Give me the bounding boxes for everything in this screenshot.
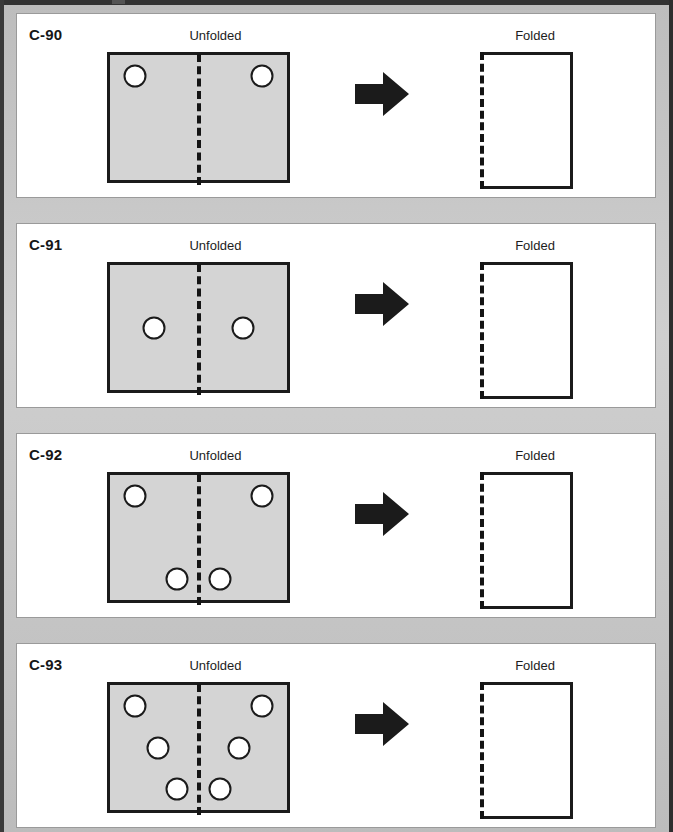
scan-edge-right xyxy=(669,0,673,832)
punched-hole xyxy=(208,567,231,590)
punched-hole xyxy=(166,777,189,800)
folded-result-outline xyxy=(480,262,573,399)
folded-result-outline xyxy=(480,472,573,609)
punched-hole xyxy=(251,695,274,718)
folded-edge-top xyxy=(480,682,573,685)
right-arrow-icon xyxy=(355,280,409,328)
folded-fold-line xyxy=(480,682,484,819)
unfolded-caption: Unfolded xyxy=(124,28,307,43)
fold-line xyxy=(197,684,201,815)
folded-edge-right xyxy=(570,52,573,189)
punched-hole xyxy=(231,316,254,339)
folded-caption: Folded xyxy=(480,238,590,253)
fold-line xyxy=(197,54,201,185)
folded-edge-bottom xyxy=(480,606,573,609)
scan-edge-left xyxy=(0,0,4,832)
folded-edge-top xyxy=(480,472,573,475)
folded-edge-bottom xyxy=(480,186,573,189)
punched-hole xyxy=(146,736,169,759)
unfolded-caption: Unfolded xyxy=(124,658,307,673)
punched-hole xyxy=(228,736,251,759)
exercise-code-label: C-92 xyxy=(29,446,62,463)
worksheet-page: C-90UnfoldedFoldedC-91UnfoldedFoldedC-92… xyxy=(0,0,673,832)
unfolded-sheet xyxy=(107,262,290,393)
folded-caption: Folded xyxy=(480,448,590,463)
right-arrow-icon xyxy=(355,490,409,538)
folded-edge-top xyxy=(480,262,573,265)
folded-edge-bottom xyxy=(480,396,573,399)
exercise-code-label: C-93 xyxy=(29,656,62,673)
punched-hole xyxy=(123,65,146,88)
folded-edge-top xyxy=(480,52,573,55)
punched-hole xyxy=(166,567,189,590)
exercise-code-label: C-91 xyxy=(29,236,62,253)
punched-hole xyxy=(208,777,231,800)
folded-edge-right xyxy=(570,262,573,399)
folded-result-outline xyxy=(480,682,573,819)
folded-caption: Folded xyxy=(480,28,590,43)
cut-off-title-sliver xyxy=(112,0,125,4)
folded-fold-line xyxy=(480,52,484,189)
right-arrow-icon xyxy=(355,700,409,748)
punched-hole xyxy=(123,485,146,508)
unfolded-sheet xyxy=(107,472,290,603)
punched-hole xyxy=(251,65,274,88)
folded-fold-line xyxy=(480,472,484,609)
scan-edge-top xyxy=(0,0,673,5)
exercise-panel: C-91UnfoldedFolded xyxy=(17,224,655,407)
unfolded-sheet xyxy=(107,682,290,813)
folded-caption: Folded xyxy=(480,658,590,673)
unfolded-caption: Unfolded xyxy=(124,448,307,463)
right-arrow-icon xyxy=(355,70,409,118)
fold-line xyxy=(197,264,201,395)
folded-fold-line xyxy=(480,262,484,399)
fold-line xyxy=(197,474,201,605)
unfolded-caption: Unfolded xyxy=(124,238,307,253)
folded-edge-right xyxy=(570,472,573,609)
punched-hole xyxy=(123,695,146,718)
folded-edge-right xyxy=(570,682,573,819)
punched-hole xyxy=(251,485,274,508)
exercise-panel: C-90UnfoldedFolded xyxy=(17,14,655,197)
punched-hole xyxy=(143,316,166,339)
exercise-panel: C-92UnfoldedFolded xyxy=(17,434,655,617)
folded-result-outline xyxy=(480,52,573,189)
folded-edge-bottom xyxy=(480,816,573,819)
exercise-code-label: C-90 xyxy=(29,26,62,43)
exercise-panel: C-93UnfoldedFolded xyxy=(17,644,655,827)
unfolded-sheet xyxy=(107,52,290,183)
